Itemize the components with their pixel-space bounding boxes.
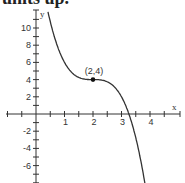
x-tick-label: 1	[63, 117, 68, 127]
y-tick-label: 10	[21, 23, 31, 33]
y-tick-label: 6	[26, 57, 31, 67]
y-tick-label: -2	[23, 126, 31, 136]
y-tick-label: 8	[26, 40, 31, 50]
x-axis-label: x	[172, 102, 177, 112]
axes	[6, 10, 180, 183]
y-tick-label: 2	[26, 92, 31, 102]
function-curve	[48, 12, 146, 183]
point-label: (2,4)	[85, 66, 104, 76]
y-tick-label: -4	[23, 143, 31, 153]
y-axis-label: y	[40, 9, 45, 19]
y-tick-label: 4	[26, 75, 31, 85]
cubic-graph: 1234 -6-4-2246810 x y (2,4)	[0, 0, 185, 183]
y-tick-label: -6	[23, 161, 31, 171]
point-marker	[91, 77, 96, 82]
x-tick-labels: 1234	[63, 117, 154, 127]
x-tick-label: 3	[120, 117, 125, 127]
x-tick-label: 2	[91, 117, 96, 127]
y-tick-labels: -6-4-2246810	[21, 23, 31, 171]
x-tick-label: 4	[148, 117, 153, 127]
